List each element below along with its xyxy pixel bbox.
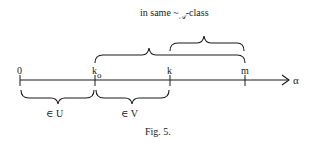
tick-label-m: m	[241, 65, 249, 76]
figure-caption: Fig. 5.	[145, 126, 171, 137]
tick-label-0: 0	[17, 65, 22, 76]
tick-label-ko: ko	[92, 65, 102, 80]
tick-label-k: k	[167, 65, 172, 76]
lower-brace-0-to-ko	[21, 90, 94, 104]
axis-label-alpha: α	[293, 74, 299, 86]
label-in-U: ∈ U	[46, 108, 64, 119]
label-in-V: ∈ V	[121, 108, 139, 119]
upper-brace-k-to-m	[170, 36, 244, 51]
annotation-text: in same ~𝒜-class	[140, 7, 209, 21]
lower-brace-ko-to-k	[96, 90, 169, 104]
figure-5-diagram: in same ~𝒜-class α 0 ko k m ∈ U ∈ V Fig.…	[0, 0, 314, 146]
